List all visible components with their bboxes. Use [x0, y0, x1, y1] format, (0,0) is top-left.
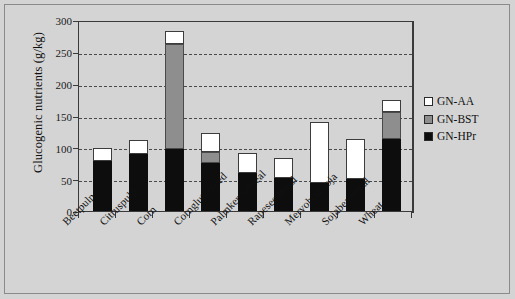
chart-legend: GN-AA GN-BST GN-HPr: [424, 96, 479, 149]
y-tick-label-200: 200: [44, 80, 72, 91]
y-tick-label-150: 150: [44, 112, 72, 123]
legend-item-gn-hpr: GN-HPr: [424, 131, 479, 143]
bar-segment-hpr: [93, 161, 112, 211]
black-swatch-icon: [424, 132, 433, 141]
bar-segment-aa: [238, 153, 257, 173]
bar-segment-aa: [129, 140, 148, 154]
bar-segment-hpr: [382, 139, 401, 211]
legend-label-gn-aa: GN-AA: [437, 96, 474, 108]
bar-segment-bst: [382, 112, 401, 139]
bar-segment-aa: [382, 100, 401, 113]
chart-figure: Glucogenic nutrients (g/kg) 300 250 200 …: [0, 0, 515, 299]
bar-segment-hpr: [129, 154, 148, 211]
gridline-250: [79, 54, 412, 55]
y-axis-title: Glucogenic nutrients (g/kg): [31, 3, 46, 203]
bar-segment-bst: [201, 152, 220, 163]
plot-right-edge: [412, 21, 414, 213]
legend-label-gn-hpr: GN-HPr: [437, 131, 476, 143]
bar-segment-aa: [93, 148, 112, 161]
bar-segment-aa: [165, 31, 184, 44]
legend-item-gn-bst: GN-BST: [424, 114, 479, 126]
bar-segment-aa: [201, 133, 220, 152]
gridline-150: [79, 118, 412, 119]
y-tick-label-50: 50: [44, 176, 72, 187]
bar-segment-aa: [346, 139, 365, 179]
y-tick-label-100: 100: [44, 144, 72, 155]
legend-label-gn-bst: GN-BST: [437, 114, 479, 126]
white-swatch-icon: [424, 97, 433, 106]
y-tick-label-250: 250: [44, 48, 72, 59]
bar-segment-hpr: [165, 149, 184, 211]
gray-swatch-icon: [424, 115, 433, 124]
bar-segment-bst: [165, 44, 184, 149]
x-tick-9: [411, 212, 412, 218]
legend-item-gn-aa: GN-AA: [424, 96, 479, 108]
gridline-200: [79, 86, 412, 87]
y-tick-label-300: 300: [44, 16, 72, 27]
